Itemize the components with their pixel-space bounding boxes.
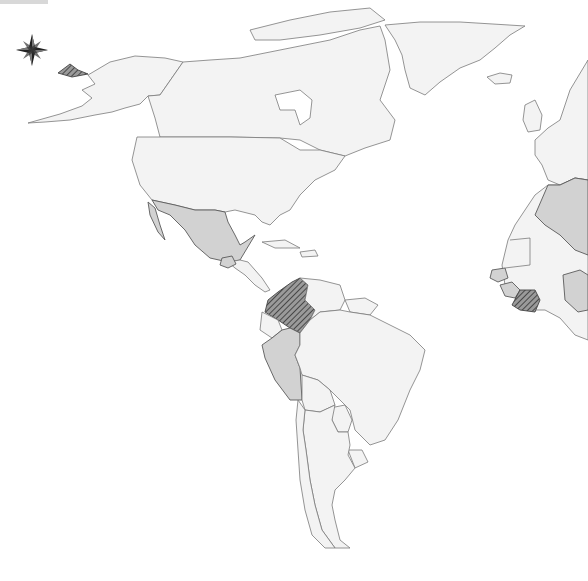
region-europe[interactable] [535,60,588,185]
region-iceland[interactable] [487,73,512,84]
world-map[interactable] [0,0,588,581]
region-canada[interactable] [148,26,395,156]
region-cuba[interactable] [262,240,300,248]
region-uk[interactable] [523,100,542,132]
region-hispaniola[interactable] [300,250,318,257]
region-greenland[interactable] [385,22,525,95]
compass-rose-icon [16,34,48,66]
region-chukotka[interactable] [58,64,88,77]
region-peru[interactable] [262,328,302,400]
